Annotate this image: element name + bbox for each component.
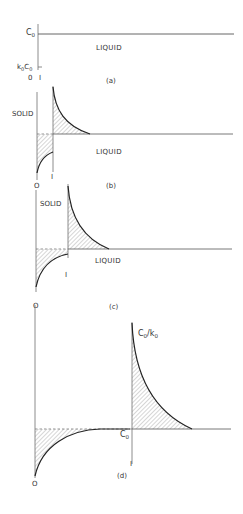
panel-d-caption: (d) [117,472,127,480]
solidification-diagram: C0 LIQUID k0C0 0 I (a) SOLID LIQUID I O … [0,0,243,514]
panel-b-origin-label: O [34,182,40,190]
panel-d-origin-label: O [32,480,38,488]
panel-d-liquid-excess-area [132,323,192,429]
panel-b-liquid-excess-area [53,87,90,134]
panel-c-origin-label: O [33,302,39,310]
panel-a-caption: (a) [106,77,116,85]
panel-b-solid-label: SOLID [12,110,33,118]
panel-d: C0/k0 C0 I (d) O [32,305,231,488]
panel-a-c0-label: C0 [26,28,36,38]
panel-d-interface-label: I [130,460,132,468]
panel-a: C0 LIQUID k0C0 0 I (a) [17,24,234,85]
panel-a-interface-label: I [39,74,41,82]
panel-a-k0c0-label: k0C0 [17,63,32,72]
panel-c-interface-label: I [65,271,67,279]
panel-b-liquid-label: LIQUID [96,148,122,156]
panel-c-solid-label: SOLID [40,200,61,208]
panel-d-c0-label: C0 [120,430,130,440]
panel-b-interface-label: I [51,173,53,181]
panel-c: SOLID LIQUID I O (c) [33,184,232,311]
panel-b: SOLID LIQUID I O (b) [12,86,233,190]
panel-a-origin-label: 0 [28,74,32,82]
panel-c-caption: (c) [109,303,119,311]
panel-c-liquid-label: LIQUID [95,257,121,265]
panel-d-peak-label: C0/k0 [138,329,158,339]
panel-c-liquid-excess-area [68,186,109,249]
panel-b-caption: (b) [106,182,116,190]
panel-a-liquid-label: LIQUID [96,44,122,52]
